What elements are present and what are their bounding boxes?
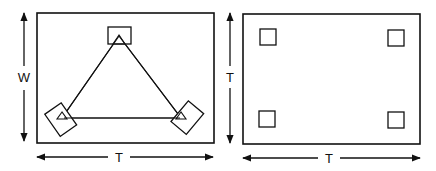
right-vertical-t-label: T	[226, 70, 234, 85]
right-panel: T T	[226, 13, 420, 166]
triangle	[62, 36, 181, 118]
corner-square-bottom-left	[259, 111, 275, 127]
left-t-dimension-label: T	[115, 150, 123, 165]
diagram-canvas: W T T T	[0, 0, 436, 171]
corner-square-top-left	[260, 29, 276, 45]
corner-square-top-right	[388, 30, 404, 46]
w-dimension-label: W	[18, 70, 31, 85]
right-horizontal-t-label: T	[325, 151, 333, 166]
corner-square-bottom-right	[388, 112, 404, 128]
left-panel: W T	[18, 13, 214, 165]
bottom-left-square	[45, 103, 77, 137]
right-plate	[243, 14, 420, 144]
